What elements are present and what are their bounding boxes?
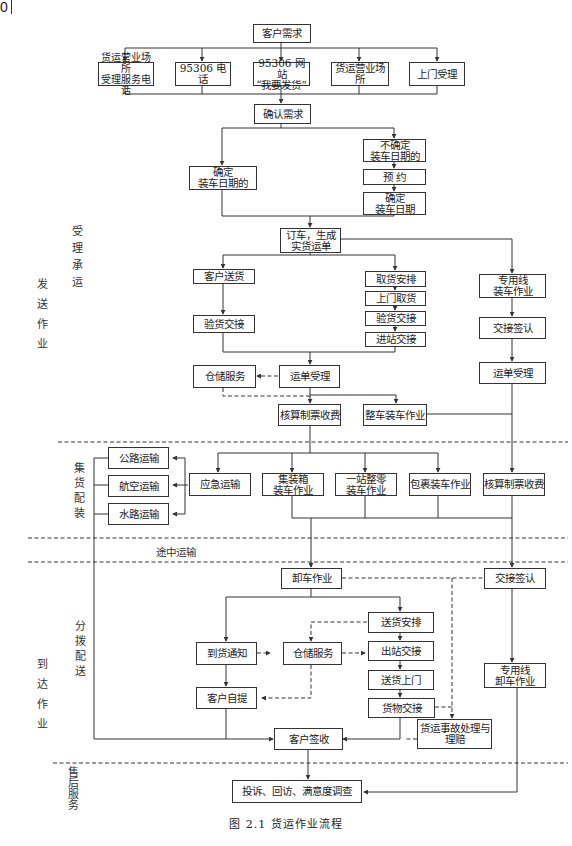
node-set-date: 确定 装车日期 [363,192,426,215]
node-date-unconfirmed: 不确定 装车日期的 [363,139,426,162]
node-billing-2: 核算制票收费 [483,473,545,496]
node-air-transport: 航空运输 [108,475,169,497]
node-storage-2: 仓储服务 [283,642,342,665]
node-full-car-loading: 整车装车作业 [363,404,427,426]
node-channel-95306-phone: 95306 电话 [175,62,231,86]
node-order-waybill: 订车，生成 实货运单 [280,228,341,253]
node-inspect-handover-1: 验货交接 [193,315,255,333]
node-cargo-handover: 货物交接 [368,698,435,718]
node-road-transport: 公路运输 [108,447,169,469]
stage-label-distribute: 分拨配送 [71,620,87,680]
stage-label-arrive-ops: 到达作业 [33,658,49,738]
node-handover-sign-2: 交接签认 [484,568,546,589]
node-station-handover: 进站交接 [365,332,426,347]
stage-label-transit: 途中运输 [156,544,196,559]
node-unloading: 卸车作业 [281,568,342,589]
node-door-delivery: 送货上门 [368,670,434,690]
stage-label-send-ops: 发送作业 [33,278,49,358]
node-one-stop-lcl: 一站整零 装车作业 [335,473,397,496]
node-waybill-accept-1: 运单受理 [279,365,340,388]
node-water-transport: 水路运输 [108,503,169,525]
node-reserve: 预 约 [363,169,426,185]
node-inspect-handover-2: 验货交接 [365,311,426,326]
node-siding-loading: 专用线 装车作业 [479,274,546,298]
node-channel-station: 货运营业场所 [331,62,389,86]
node-confirm-demand: 确认需求 [254,104,311,124]
node-door-pickup: 上门取货 [365,291,426,306]
stage-label-accept: 受理承运 [68,225,84,293]
node-customer-sign: 客户签收 [274,728,343,750]
node-delivery-plan: 送货安排 [368,612,434,633]
node-siding-unloading: 专用线 卸车作业 [484,663,546,688]
figure-caption: 图 2.1 货运作业流程 [0,815,572,831]
node-arrival-notice: 到货通知 [196,642,257,665]
node-storage-1: 仓储服务 [193,365,256,388]
node-handover-sign-1: 交接签认 [479,317,546,339]
node-customer-demand: 客户需求 [253,24,311,43]
node-customer-delivery: 客户送货 [193,269,255,284]
node-feedback: 投诉、回访、满意度调查 [232,780,362,803]
node-accident-claims: 货运事故处理与 理赔 [417,719,492,749]
node-waybill-accept-2: 运单受理 [479,362,546,384]
node-parcel-loading: 包裹装车作业 [409,473,471,496]
node-self-pickup: 客户自提 [196,687,257,709]
node-channel-phone-station: 货运营业场所 受理服务电话 [98,62,154,86]
stage-label-after-sales: 售后服务 [64,766,80,810]
node-container-loading: 集装箱 装车作业 [262,473,324,496]
node-billing-1: 核算制票收费 [278,404,341,426]
node-channel-95306-web: 95306 网站 “我要发货” [253,62,310,86]
node-pickup-plan: 取货安排 [365,271,426,287]
node-emergency-transport: 应急运输 [189,473,251,496]
stage-label-consolidate: 集货配装 [70,462,86,522]
node-date-confirmed: 确定 装车日期的 [189,166,257,190]
node-channel-door: 上门受理 [409,62,465,86]
node-outbound-handover: 出站交接 [368,641,434,661]
